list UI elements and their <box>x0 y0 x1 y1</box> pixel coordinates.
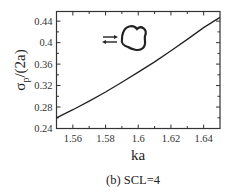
y-tick-label: 0.24 <box>34 123 53 134</box>
y-tick-label: 0.36 <box>34 59 52 70</box>
data-line <box>57 17 221 117</box>
trefoil-shape-icon <box>122 26 146 50</box>
x-axis-label: ka <box>131 147 146 163</box>
y-axis-ticks <box>57 21 221 128</box>
y-axis-label: σp/(2a) <box>12 49 31 90</box>
x-tick-label: 1.56 <box>64 133 82 144</box>
data-series <box>57 17 221 117</box>
chart: 1.561.581.61.621.64 0.240.280.320.360.40… <box>0 0 232 193</box>
svg-text:σp/(2a): σp/(2a) <box>12 49 31 90</box>
y-tick-label: 0.44 <box>34 16 53 27</box>
trefoil-scatterer-icon <box>102 26 146 50</box>
figure-caption: (b) SCL=4 <box>106 173 161 187</box>
y-tick-label: 0.28 <box>34 102 52 113</box>
y-axis-label-rest: /(2a) <box>12 49 29 77</box>
x-axis-tick-labels: 1.561.581.61.621.64 <box>64 133 214 144</box>
x-tick-label: 1.58 <box>96 133 114 144</box>
x-tick-label: 1.62 <box>162 133 180 144</box>
x-tick-label: 1.6 <box>132 133 145 144</box>
y-axis-label-main: σ <box>12 83 28 91</box>
y-tick-label: 0.32 <box>34 80 52 91</box>
x-tick-label: 1.64 <box>194 133 213 144</box>
y-axis-tick-labels: 0.240.280.320.360.40.44 <box>34 16 53 134</box>
y-tick-label: 0.4 <box>39 37 53 48</box>
